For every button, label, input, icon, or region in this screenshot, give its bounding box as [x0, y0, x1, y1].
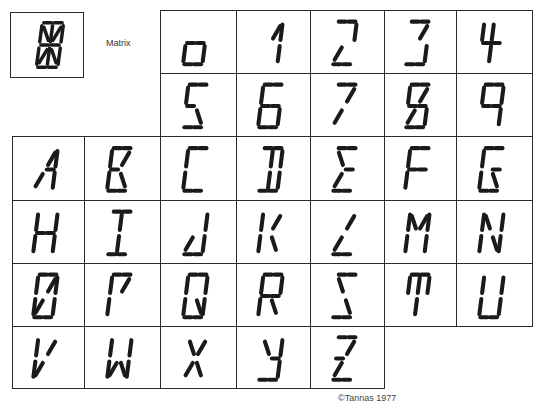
- segment-k: [335, 47, 342, 59]
- segment-f: [482, 278, 484, 293]
- segment-f: [36, 340, 38, 355]
- glyph-5-icon: [161, 74, 236, 136]
- segment-j: [420, 89, 427, 101]
- segment-m: [121, 363, 125, 375]
- segment-e: [258, 236, 260, 251]
- character-cell-9: [456, 73, 533, 137]
- glyph-C-icon: [161, 137, 236, 200]
- segment-f: [408, 215, 410, 230]
- character-cell-J: [160, 200, 237, 264]
- segment-e: [479, 172, 481, 187]
- glyph-P-icon: [85, 264, 160, 326]
- glyph-H-icon: [13, 201, 84, 263]
- segment-c: [53, 172, 55, 187]
- segment-b: [129, 340, 131, 355]
- segment-f: [186, 88, 188, 103]
- segment-c: [425, 236, 427, 251]
- segment-c: [58, 48, 60, 64]
- segment-e: [405, 236, 407, 251]
- character-cell-Z: [310, 326, 385, 389]
- character-cell-T: [384, 263, 457, 327]
- segment-h: [44, 27, 48, 40]
- segment-f: [261, 278, 263, 293]
- glyph-S-icon: [311, 264, 384, 326]
- segment-c: [499, 109, 501, 124]
- character-cell-X: [160, 326, 237, 389]
- character-cell-U: [456, 263, 533, 327]
- character-cell-B: [84, 136, 161, 201]
- segment-b: [354, 25, 356, 40]
- segment-l: [47, 48, 49, 64]
- glyph-D-icon: [237, 137, 310, 200]
- segment-f: [408, 278, 410, 293]
- segment-f: [36, 278, 38, 293]
- segment-c: [499, 299, 501, 314]
- character-cell-M: [384, 200, 457, 264]
- segment-c: [278, 109, 280, 124]
- segment-l: [415, 299, 417, 314]
- segment-j: [347, 89, 354, 101]
- glyph-F-icon: [385, 137, 456, 200]
- character-cell-L: [310, 200, 385, 264]
- segment-c: [425, 46, 427, 61]
- segment-f: [482, 88, 484, 103]
- segment-c: [278, 361, 280, 376]
- character-cell-0: [160, 10, 237, 74]
- character-cell-4: [456, 10, 533, 74]
- segment-b: [501, 88, 503, 103]
- character-cell-1: [236, 10, 311, 74]
- segment-b: [280, 278, 282, 293]
- segment-f: [110, 278, 112, 293]
- segment-j: [122, 153, 129, 165]
- segment-j: [122, 279, 129, 291]
- segment-m: [197, 110, 201, 122]
- character-cell-W: [84, 326, 161, 389]
- character-cell-D: [236, 136, 311, 201]
- glyph-K-icon: [237, 201, 310, 263]
- segment-e: [258, 109, 260, 124]
- glyph-G-icon: [457, 137, 532, 200]
- character-cell-I: [84, 200, 161, 264]
- segment-j: [48, 342, 55, 354]
- segment-m: [197, 300, 201, 312]
- segment-c: [127, 361, 129, 376]
- segment-k: [36, 174, 43, 186]
- segment-e: [33, 236, 35, 251]
- glyph-R-icon: [237, 264, 310, 326]
- segment-e: [183, 299, 185, 314]
- character-cell-A: [12, 136, 85, 201]
- segment-c: [425, 109, 427, 124]
- glyph-A-icon: [13, 137, 84, 200]
- glyph-3-icon: [385, 11, 456, 73]
- glyph-B-icon: [85, 137, 160, 200]
- segment-m: [493, 174, 497, 186]
- segment-c: [203, 236, 205, 251]
- character-cell-8: [384, 73, 457, 137]
- glyph-M-icon: [385, 201, 456, 263]
- glyph-U-icon: [457, 264, 532, 326]
- segment-l: [117, 236, 119, 251]
- character-cell-P: [84, 263, 161, 327]
- segment-i: [418, 278, 420, 293]
- character-cell-5: [160, 73, 237, 137]
- segment-b: [280, 340, 282, 355]
- character-cell-S: [310, 263, 385, 327]
- segment-m: [272, 300, 276, 312]
- segment-j: [347, 216, 354, 228]
- character-cell-7: [310, 73, 385, 137]
- segment-m: [493, 237, 497, 249]
- glyph-E-icon: [311, 137, 384, 200]
- character-cell-H: [12, 200, 85, 264]
- segment-matrix-legend: [10, 12, 84, 78]
- glyph-N-icon: [457, 201, 532, 263]
- glyph-7-icon: [311, 74, 384, 136]
- segment-i: [271, 151, 273, 166]
- glyph-O-icon: [13, 264, 84, 326]
- segment-f: [482, 25, 484, 40]
- segment-k: [335, 363, 342, 375]
- glyph-V-icon: [13, 327, 84, 388]
- segment-c: [53, 236, 55, 251]
- segment-f: [36, 215, 38, 230]
- character-cell-E: [310, 136, 385, 201]
- character-cell-2: [310, 10, 385, 74]
